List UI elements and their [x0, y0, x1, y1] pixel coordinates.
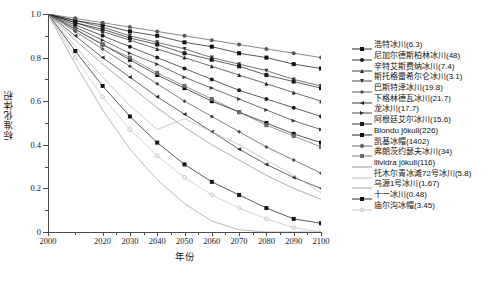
legend-item[interactable]: 辛特艾斯费纳冰川(7.4) [350, 61, 496, 72]
y-minor-tick [45, 167, 48, 168]
legend-item[interactable]: 斯托格雷希尔仑冰川(3.1) [350, 72, 496, 83]
legend-marker-icon [350, 115, 374, 125]
legend-item-label: 乌源1号冰川(1.67) [374, 179, 439, 189]
legend-item-label: 弗朗茨约瑟夫冰川(34) [374, 147, 452, 157]
x-minor-tick [171, 232, 172, 235]
y-minor-tick [45, 123, 48, 124]
chart-figure: 2000202020302040205020602070208020902100… [0, 0, 496, 287]
legend-item[interactable]: 十一冰川(0.48) [350, 190, 496, 201]
legend-marker-icon [350, 40, 374, 50]
y-tick [43, 145, 48, 146]
y-axis-line [48, 14, 49, 232]
x-minor-tick [116, 232, 117, 235]
legend-marker-icon [350, 190, 374, 200]
legend-marker-icon [350, 104, 374, 114]
x-minor-tick [280, 232, 281, 235]
x-minor-tick [253, 232, 254, 235]
plot-area [48, 14, 321, 232]
legend-item[interactable]: 庙尔沟冰帽(3.45) [350, 200, 496, 211]
legend-item-label: 托木尔青冰滩72号冰川(5.8) [374, 169, 471, 179]
legend-item[interactable]: 尼加尔德斯柏林冰川(48) [350, 51, 496, 62]
x-minor-tick [144, 232, 145, 235]
x-axis-title: 年份 [0, 249, 370, 263]
legend-marker-icon [350, 62, 374, 72]
legend-item-label: 巴斯特泽冰川(19.8) [374, 83, 443, 93]
y-minor-tick [45, 210, 48, 211]
legend-item-label: 庙尔沟冰帽(3.45) [374, 201, 435, 211]
legend-marker-icon [350, 201, 374, 211]
legend-item[interactable]: 凯基冰帽(1402) [350, 136, 496, 147]
y-tick [43, 232, 48, 233]
y-tick-label: 1.0 [0, 10, 41, 18]
legend-marker-icon [350, 147, 374, 157]
series-curves [48, 14, 321, 232]
y-tick [43, 14, 48, 15]
legend-item[interactable]: Blondu jökull(226) [350, 126, 496, 137]
x-minor-tick [75, 232, 76, 235]
legend-item[interactable]: 龙冰川(17.7) [350, 104, 496, 115]
legend-item-label: 斯托格雷希尔仑冰川(3.1) [374, 72, 462, 82]
legend-item[interactable]: lllvidra jökull(116) [350, 158, 496, 169]
legend-marker-icon [350, 169, 374, 179]
legend-item-label: 辛特艾斯费纳冰川(7.4) [374, 62, 454, 72]
legend-item-label: 龙冰川(17.7) [374, 104, 419, 114]
y-tick-label: 0.2 [0, 184, 41, 192]
legend-marker-icon [350, 179, 374, 189]
y-tick-label: 0.8 [0, 54, 41, 62]
legend-item-label: lllvidra jökull(116) [374, 158, 435, 168]
x-tick-label: 2000 [28, 236, 68, 246]
legend-item-label: 十一冰川(0.48) [374, 190, 427, 200]
legend-item-label: 凯基冰帽(1402) [374, 137, 429, 147]
legend-item[interactable]: 弗朗茨约瑟夫冰川(34) [350, 147, 496, 158]
x-minor-tick [307, 232, 308, 235]
legend-marker-icon [350, 51, 374, 61]
y-tick [43, 188, 48, 189]
y-tick-label: 0.4 [0, 141, 41, 149]
legend-item[interactable]: 阿根廷艾尔冰川(15.6) [350, 115, 496, 126]
series-4 [48, 14, 321, 175]
legend-marker-icon [350, 137, 374, 147]
legend-item[interactable]: 下格林德瓦冰川(21.7) [350, 93, 496, 104]
legend: 浩特冰川(6.3)尼加尔德斯柏林冰川(48)辛特艾斯费纳冰川(7.4)斯托格雷希… [350, 40, 496, 211]
legend-item[interactable]: 浩特冰川(6.3) [350, 40, 496, 51]
legend-item-label: 下格林德瓦冰川(21.7) [374, 94, 451, 104]
y-tick-label: 0 [0, 228, 41, 236]
legend-marker-icon [350, 126, 374, 136]
legend-marker-icon [350, 158, 374, 168]
y-minor-tick [45, 79, 48, 80]
legend-item-label: Blondu jökull(226) [374, 126, 438, 136]
legend-item[interactable]: 托木尔青冰滩72号冰川(5.8) [350, 168, 496, 179]
legend-item-label: 浩特冰川(6.3) [374, 40, 422, 50]
x-tick-label: 2100 [301, 236, 341, 246]
legend-item-label: 尼加尔德斯柏林冰川(48) [374, 51, 460, 61]
y-minor-tick [45, 36, 48, 37]
y-tick [43, 101, 48, 102]
legend-marker-icon [350, 72, 374, 82]
x-minor-tick [198, 232, 199, 235]
series-14 [48, 14, 321, 225]
x-minor-tick [225, 232, 226, 235]
legend-marker-icon [350, 94, 374, 104]
legend-item-label: 阿根廷艾尔冰川(15.6) [374, 115, 451, 125]
legend-item[interactable]: 乌源1号冰川(1.67) [350, 179, 496, 190]
legend-item[interactable]: 巴斯特泽冰川(19.8) [350, 83, 496, 94]
y-axis-title: 标准化体积 [2, 90, 14, 140]
y-tick [43, 58, 48, 59]
legend-marker-icon [350, 83, 374, 93]
